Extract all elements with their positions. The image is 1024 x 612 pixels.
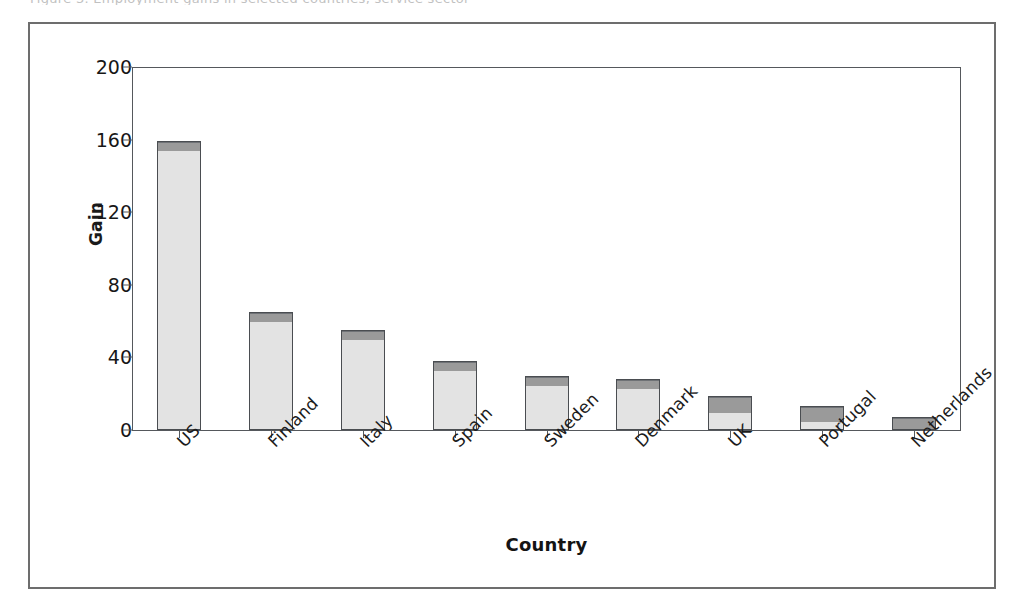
bar[interactable] — [249, 312, 293, 430]
chart-page: Figure 3. Employment gains in selected c… — [0, 0, 1024, 612]
bars-layer — [133, 67, 960, 430]
bar-base-segment — [526, 377, 568, 386]
bar-base-segment — [709, 397, 751, 413]
bar-slot — [157, 67, 201, 430]
y-tick-mark — [123, 212, 132, 213]
bar-upper-segment — [250, 322, 292, 429]
bar-upper-segment — [158, 151, 200, 429]
bar[interactable] — [157, 141, 201, 430]
bar-slot — [525, 67, 569, 430]
y-tick-mark — [123, 284, 132, 285]
bar-slot — [341, 67, 385, 430]
bar-slot — [249, 67, 293, 430]
bar-base-segment — [617, 380, 659, 389]
x-axis-title: Country — [132, 534, 961, 555]
bar-slot — [708, 67, 752, 430]
bar-base-segment — [158, 142, 200, 151]
y-tick-mark-group — [123, 0, 133, 612]
bar-slot — [433, 67, 477, 430]
bar-slot — [800, 67, 844, 430]
bar-slot — [616, 67, 660, 430]
figure-caption-clipped: Figure 3. Employment gains in selected c… — [30, 0, 990, 5]
y-tick-mark — [123, 430, 132, 431]
y-tick-mark — [123, 139, 132, 140]
bar-base-segment — [434, 362, 476, 371]
y-tick-mark — [123, 67, 132, 68]
bar-base-segment — [250, 313, 292, 322]
bar-slot — [892, 67, 936, 430]
bar-base-segment — [342, 331, 384, 340]
y-tick-mark — [123, 357, 132, 358]
